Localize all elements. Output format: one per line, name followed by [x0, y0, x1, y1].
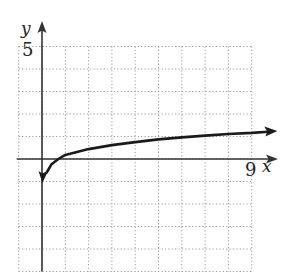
x-axis-label: x: [262, 158, 272, 175]
curve: [38, 127, 277, 183]
log-curve: [43, 132, 269, 175]
y-tick-label-5: 5: [22, 41, 33, 59]
axes: [17, 21, 278, 272]
x-tick-label-9: 9: [245, 161, 256, 179]
graph: [0, 0, 291, 279]
y-axis-label: y: [21, 20, 31, 37]
